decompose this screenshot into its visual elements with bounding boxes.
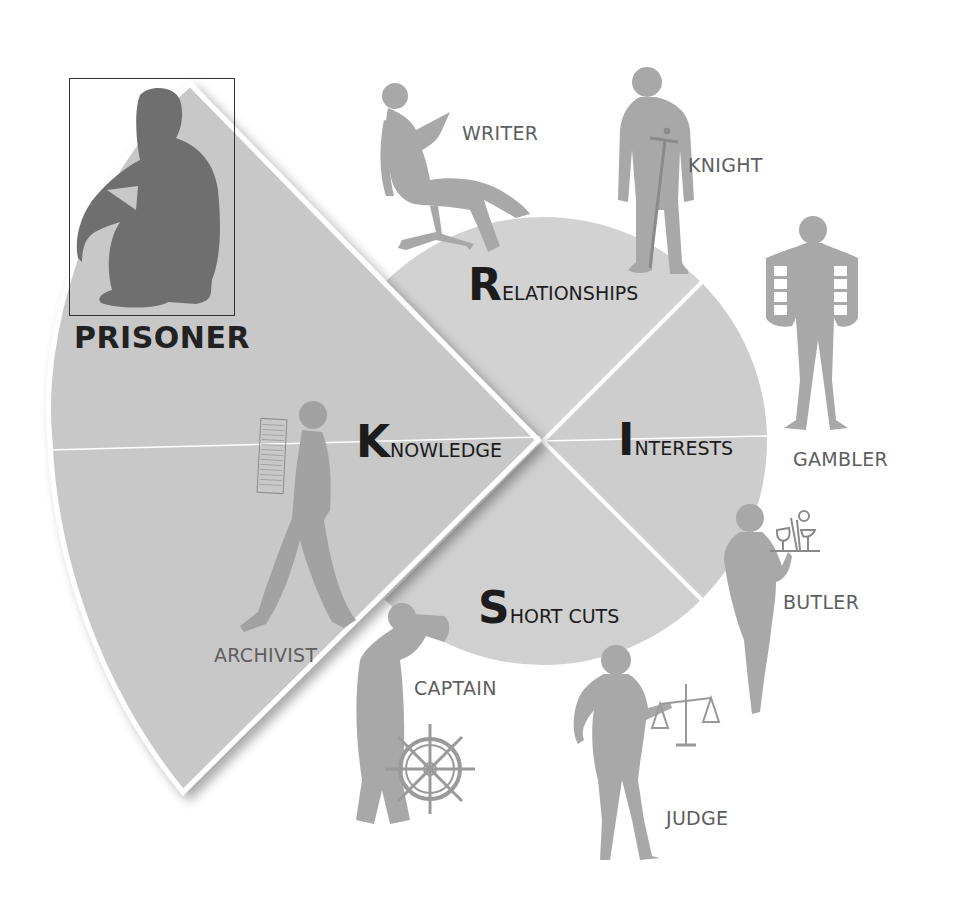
segment-label-relationships: RELATIONSHIPS [468,263,638,307]
prisoner-frame [69,78,235,316]
character-label-writer: WRITER [462,122,538,144]
scales-icon [652,684,719,745]
character-label-judge: JUDGE [666,807,728,829]
segment-rest: HORT CUTS [510,605,620,627]
drinks-tray-icon [770,511,820,551]
character-label-captain: CAPTAIN [414,677,497,699]
character-label-butler: BUTLER [783,591,859,613]
captain-figure [356,603,449,824]
segment-rest: NTERESTS [634,437,733,459]
segment-rest: NOWLEDGE [390,439,502,461]
segment-initial: S [478,582,510,633]
segment-label-knowledge: KNOWLEDGE [356,420,502,464]
segment-initial: R [468,259,502,310]
segment-rest: ELATIONSHIPS [502,282,638,304]
judge-figure [574,645,672,860]
character-label-gambler: GAMBLER [793,448,888,470]
segment-initial: I [618,414,634,465]
ship-wheel-icon [385,724,475,814]
character-label-knight: KNIGHT [688,154,763,176]
prisoner-label: PRISONER [74,320,250,355]
segment-label-short-cuts: SHORT CUTS [478,586,619,630]
segment-label-interests: INTERESTS [618,418,733,462]
gambler-figure [766,216,858,430]
character-label-archivist: ARCHIVIST [214,644,317,666]
segment-initial: K [356,416,390,467]
role-diagram: PRISONER RELATIONSHIPS INTERESTS SHORT C… [0,0,955,912]
